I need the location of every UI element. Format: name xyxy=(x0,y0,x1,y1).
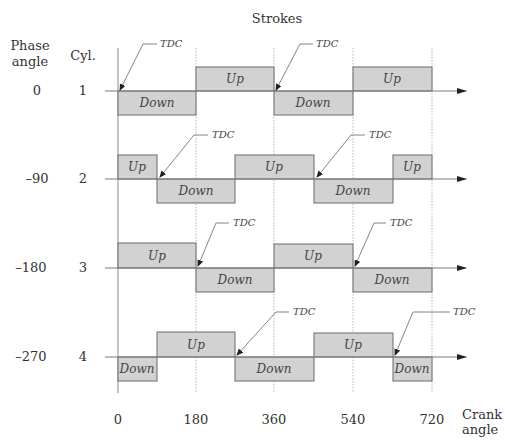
crank-angle-ticks: 0 180 360 540 720 xyxy=(114,412,445,427)
stroke-label: Down xyxy=(374,273,410,287)
stroke-label: Up xyxy=(148,249,166,263)
tick-label: 360 xyxy=(262,412,287,427)
phase-angle-value: –180 xyxy=(15,260,46,275)
cylinder-number: 1 xyxy=(79,83,87,98)
stroke-label: Up xyxy=(128,160,146,174)
tdc-leader-arrow xyxy=(395,312,450,355)
tick-label: 540 xyxy=(341,412,366,427)
phase-angle-header-line2: angle xyxy=(12,54,49,69)
cylinder-row-1: 0 1 Down Up Down Up TDC TDC xyxy=(33,38,466,115)
stroke-label: Down xyxy=(139,96,175,110)
stroke-label: Up xyxy=(344,338,362,352)
stroke-label: Down xyxy=(295,96,331,110)
stroke-label: Down xyxy=(119,362,155,376)
tdc-label: TDC xyxy=(233,217,256,228)
stroke-label: Up xyxy=(226,72,244,86)
tdc-label: TDC xyxy=(293,306,316,317)
tdc-label: TDC xyxy=(453,306,476,317)
tdc-label: TDC xyxy=(212,129,235,140)
cylinder-number: 2 xyxy=(79,171,87,186)
stroke-label: Up xyxy=(403,160,421,174)
tdc-leader-arrow xyxy=(355,223,386,266)
tdc-label: TDC xyxy=(316,38,339,49)
tdc-label: TDC xyxy=(369,129,392,140)
stroke-label: Up xyxy=(265,160,283,174)
cylinder-number: 3 xyxy=(79,260,87,275)
tick-label: 720 xyxy=(420,412,445,427)
tdc-leader-arrow xyxy=(317,135,365,177)
x-axis-label-line1: Crank xyxy=(462,407,502,422)
cylinder-row-3: –180 3 Up Down Up Down TDC TDC xyxy=(15,217,466,292)
phase-angle-value: 0 xyxy=(33,83,41,98)
cylinder-header: Cyl. xyxy=(70,48,96,63)
stroke-label: Down xyxy=(217,273,253,287)
tdc-label: TDC xyxy=(390,217,413,228)
phase-angle-value: –90 xyxy=(25,171,48,186)
stroke-label: Up xyxy=(187,338,205,352)
cylinder-number: 4 xyxy=(79,349,87,364)
tdc-leader-arrow xyxy=(120,44,157,90)
cylinder-row-4: –270 4 Down Up Down Up Down TDC TDC xyxy=(15,306,475,381)
phase-angle-value: –270 xyxy=(15,349,46,364)
tick-label: 0 xyxy=(114,412,122,427)
tdc-label: TDC xyxy=(160,38,183,49)
stroke-label: Down xyxy=(394,362,430,376)
diagram-title: Strokes xyxy=(252,11,302,26)
tdc-leader-arrow xyxy=(160,135,208,177)
stroke-label: Down xyxy=(178,184,214,198)
x-axis-label-line2: angle xyxy=(462,422,499,437)
stroke-label: Up xyxy=(304,249,322,263)
tdc-leader-arrow xyxy=(237,312,289,355)
stroke-label: Down xyxy=(335,184,371,198)
stroke-label: Down xyxy=(256,362,292,376)
cylinder-row-2: –90 2 Up Down Up Down Up TDC TDC xyxy=(25,129,466,203)
phase-angle-header-line1: Phase xyxy=(10,38,50,53)
tdc-leader-arrow xyxy=(198,223,229,266)
tick-label: 180 xyxy=(184,412,209,427)
tdc-leader-arrow xyxy=(276,44,313,90)
stroke-label: Up xyxy=(383,72,401,86)
engine-stroke-diagram: Strokes Phase angle Cyl. 0 1 Down Up Dow… xyxy=(0,0,505,443)
